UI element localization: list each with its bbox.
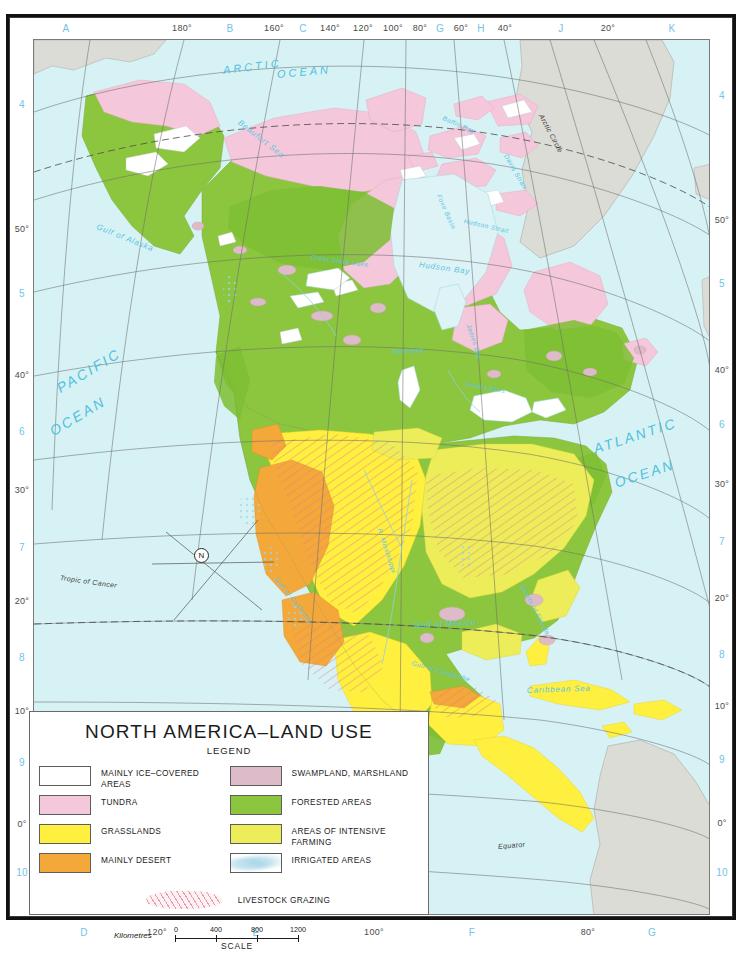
margin-label-top-10: 60° xyxy=(454,23,469,33)
margin-label-right-2: 5 xyxy=(719,278,725,289)
legend-item-desert: MAINLY DESERT xyxy=(39,852,230,881)
margin-label-bottom-3: 100° xyxy=(364,927,384,937)
margin-label-right-9: 10° xyxy=(715,701,730,711)
margin-label-top-12: 40° xyxy=(498,23,513,33)
margin-label-bottom-6: G xyxy=(648,927,656,938)
margin-label-top-4: C xyxy=(299,23,307,34)
swatch-livestock-grazing xyxy=(146,891,222,909)
legend-label-tundra: TUNDRA xyxy=(101,794,138,808)
margin-label-top-5: 140° xyxy=(320,23,340,33)
swatch-grasslands xyxy=(39,824,91,844)
margin-label-top-1: 180° xyxy=(172,23,192,33)
map-legend: NORTH AMERICA–LAND USE LEGEND MAINLY ICE… xyxy=(29,711,429,915)
swatch-desert xyxy=(39,853,91,873)
scale-number-400: 400 xyxy=(210,925,222,934)
margin-label-left-9: 10° xyxy=(15,706,30,716)
margin-label-bottom-4: F xyxy=(469,927,475,938)
margin-label-left-6: 7 xyxy=(19,542,25,553)
margin-label-top-11: H xyxy=(477,23,485,34)
margin-label-top-6: 120° xyxy=(353,23,373,33)
margin-label-top-0: A xyxy=(63,23,70,34)
swatch-intensive-farming xyxy=(230,824,282,844)
swatch-irrigated xyxy=(230,853,282,873)
margin-label-right-8: 8 xyxy=(719,649,725,660)
scale-bar: Kilometres 0 400 800 1200 SCALE xyxy=(114,918,344,952)
compass-rose: N xyxy=(194,548,209,563)
margin-label-top-9: G xyxy=(436,23,444,34)
margin-label-right-0: 4 xyxy=(719,90,725,101)
legend-item-irrigated: IRRIGATED AREAS xyxy=(230,852,421,881)
legend-item-ice-covered: MAINLY ICE–COVERED AREAS xyxy=(39,765,230,794)
margin-label-top-2: B xyxy=(227,23,234,34)
margin-label-left-4: 6 xyxy=(19,426,25,437)
map-page: ARCTIC OCEAN PACIFIC OCEAN ATLANTIC OCEA… xyxy=(0,0,746,968)
legend-title: NORTH AMERICA–LAND USE xyxy=(30,721,428,743)
margin-label-top-8: 80° xyxy=(413,23,428,33)
scale-number-800: 800 xyxy=(251,925,263,934)
margin-label-right-12: 10 xyxy=(716,867,728,878)
margin-label-left-5: 30° xyxy=(15,485,30,495)
margin-label-left-7: 20° xyxy=(15,596,30,606)
legend-column-left: MAINLY ICE–COVERED AREAS TUNDRA GRASSLAN… xyxy=(39,765,230,881)
margin-label-top-13: J xyxy=(558,23,563,34)
margin-label-left-2: 5 xyxy=(19,288,25,299)
margin-label-top-7: 100° xyxy=(383,23,403,33)
legend-label-grasslands: GRASSLANDS xyxy=(101,823,161,837)
legend-item-swampland: SWAMPLAND, MARSHLAND xyxy=(230,765,421,794)
swatch-forested xyxy=(230,795,282,815)
margin-label-left-10: 9 xyxy=(19,757,25,768)
margin-label-left-11: 0° xyxy=(17,819,26,829)
legend-item-intensive-farming: AREAS OF INTENSIVE FARMING xyxy=(230,823,421,852)
legend-label-swampland: SWAMPLAND, MARSHLAND xyxy=(292,765,409,779)
scale-caption: SCALE xyxy=(175,941,299,951)
scale-number-0: 0 xyxy=(174,925,178,934)
margin-label-right-3: 40° xyxy=(715,365,730,375)
margin-label-right-1: 50° xyxy=(715,215,730,225)
legend-column-right: SWAMPLAND, MARSHLAND FORESTED AREAS AREA… xyxy=(230,765,421,881)
legend-heading: LEGEND xyxy=(30,745,428,756)
swatch-swampland xyxy=(230,766,282,786)
legend-label-ice-covered: MAINLY ICE–COVERED AREAS xyxy=(101,765,230,789)
legend-label-livestock-grazing: LIVESTOCK GRAZING xyxy=(238,895,330,906)
margin-label-left-1: 50° xyxy=(15,224,30,234)
legend-label-forested: FORESTED AREAS xyxy=(292,794,372,808)
legend-item-forested: FORESTED AREAS xyxy=(230,794,421,823)
legend-item-grasslands: GRASSLANDS xyxy=(39,823,230,852)
margin-label-bottom-0: D xyxy=(80,927,88,938)
scale-bar-line xyxy=(175,938,299,939)
legend-label-desert: MAINLY DESERT xyxy=(101,852,171,866)
margin-label-top-14: 20° xyxy=(601,23,616,33)
margin-label-left-12: 10 xyxy=(16,867,28,878)
margin-label-left-0: 4 xyxy=(19,99,25,110)
margin-label-left-3: 40° xyxy=(15,370,30,380)
legend-label-irrigated: IRRIGATED AREAS xyxy=(292,852,372,866)
margin-label-right-4: 6 xyxy=(719,419,725,430)
margin-label-right-11: 0° xyxy=(717,818,726,828)
margin-label-top-15: K xyxy=(669,23,676,34)
margin-label-right-7: 20° xyxy=(715,593,730,603)
margin-label-bottom-5: 80° xyxy=(581,927,596,937)
legend-item-livestock-grazing: LIVESTOCK GRAZING xyxy=(30,891,428,909)
margin-label-left-8: 8 xyxy=(19,652,25,663)
margin-label-top-3: 160° xyxy=(264,23,284,33)
margin-label-right-5: 30° xyxy=(715,479,730,489)
legend-item-tundra: TUNDRA xyxy=(39,794,230,823)
legend-label-intensive-farming: AREAS OF INTENSIVE FARMING xyxy=(292,823,421,847)
margin-label-right-6: 7 xyxy=(719,536,725,547)
scale-number-1200: 1200 xyxy=(290,925,306,934)
swatch-tundra xyxy=(39,795,91,815)
swatch-ice-covered xyxy=(39,766,91,786)
margin-label-right-10: 9 xyxy=(719,754,725,765)
scale-unit-label: Kilometres xyxy=(114,931,152,940)
